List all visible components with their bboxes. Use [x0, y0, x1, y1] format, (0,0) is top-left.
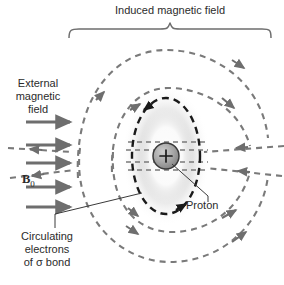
- circulating-electrons-leader-line: [55, 193, 142, 228]
- circulating-line-3: of σ bond: [1, 256, 93, 269]
- proton-leader-line: [172, 164, 208, 202]
- external-field-line-3: field: [2, 103, 74, 116]
- circulating-line-2: electrons: [1, 243, 93, 256]
- external-field-line-1: External: [2, 77, 74, 90]
- induced-field-brace: [69, 23, 271, 38]
- circulating-electrons-label: Circulating electrons of σ bond: [1, 230, 93, 268]
- external-field-line-2: magnetic: [2, 90, 74, 103]
- induced-magnetic-field-label: Induced magnetic field: [60, 4, 280, 17]
- external-magnetic-field-label: External magnetic field: [2, 77, 74, 115]
- circulating-line-1: Circulating: [1, 230, 93, 243]
- b0-symbol-label: B0: [22, 172, 66, 189]
- proton-text: Proton: [186, 199, 218, 211]
- figure-canvas: Induced magnetic field External magnetic…: [0, 0, 284, 285]
- induced-magnetic-field-text: Induced magnetic field: [115, 4, 225, 16]
- proton-label: Proton: [186, 199, 236, 212]
- b0-subscript: 0: [30, 179, 35, 189]
